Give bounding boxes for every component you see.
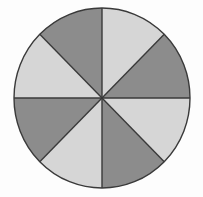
pie-divider-group [14,8,190,188]
pie-chart-figure [0,0,203,197]
pie-chart-canvas [0,0,203,197]
